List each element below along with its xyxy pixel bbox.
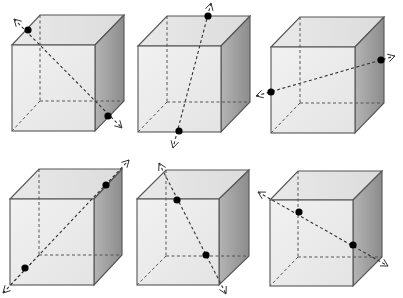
axis-point-dot (202, 251, 209, 258)
cube-rotation-axes-diagram (0, 0, 403, 298)
cube-3 (256, 17, 395, 133)
axis-point-dot (349, 241, 356, 248)
axis-point-dot (24, 26, 31, 33)
cube-6 (258, 171, 388, 286)
axis-point-dot (102, 181, 109, 188)
axis-point-dot (21, 264, 28, 271)
cube-5 (137, 163, 249, 294)
axis-point-dot (173, 196, 180, 203)
axis-point-dot (295, 208, 302, 215)
axis-point-dot (175, 127, 182, 134)
arrowhead-icon (380, 259, 388, 266)
diagram-svg (0, 0, 403, 298)
axis-point-dot (204, 12, 211, 19)
cubes-group (3, 3, 395, 294)
cube-2 (138, 3, 250, 148)
axis-point-dot (267, 88, 274, 95)
axis-point-dot (377, 56, 384, 63)
cube-1 (12, 15, 124, 131)
cube-4 (3, 160, 129, 293)
axis-point-dot (104, 112, 111, 119)
